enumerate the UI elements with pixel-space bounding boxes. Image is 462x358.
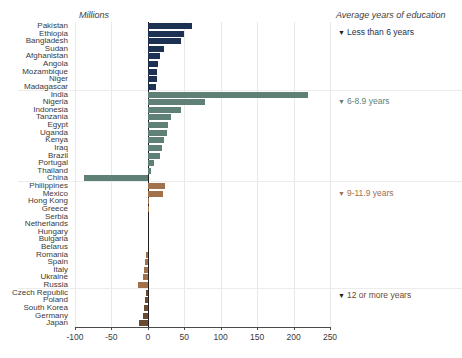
bar [148,137,164,143]
caret-down-icon: ▼ [338,292,345,299]
x-axis-line [75,327,330,328]
bar [146,252,148,258]
bar [148,114,171,120]
bar [148,61,158,67]
bar [148,130,167,136]
bar [148,206,149,212]
x-axis-tick-label: -100 [66,332,83,342]
bar [148,145,163,151]
bar [148,76,157,82]
legend-label: Less than 6 years [347,27,414,37]
x-axis-tick [75,327,76,330]
bar [148,198,149,204]
bar [139,320,148,326]
left-axis-title: Millions [79,10,109,20]
bar [148,153,160,159]
bar [148,191,163,197]
bar [148,107,181,113]
x-axis-tick [184,327,185,330]
bar [143,313,148,319]
legend-entry-3: ▼9-11.9 years [338,188,394,198]
bar [148,69,157,75]
bar [145,297,148,303]
caret-down-icon: ▼ [338,29,345,36]
legend-label: 9-11.9 years [347,188,394,198]
x-axis-tick-label: 250 [323,332,337,342]
bar [144,305,148,311]
x-axis-tick [221,327,222,330]
bar [148,23,192,29]
x-axis-tick [257,327,258,330]
x-axis-tick-label: 50 [180,332,189,342]
bar [143,274,148,280]
bar [148,168,152,174]
plot-area: PakistanEthiopiaBangladeshSudanAfghanist… [75,22,330,327]
bar [84,175,147,181]
x-axis-tick-label: 200 [286,332,300,342]
bar [145,259,148,265]
bar [146,290,148,296]
bar [148,99,205,105]
gridline [330,22,331,327]
legend-entry-4: ▼12 or more years [338,290,411,300]
bar [144,267,148,273]
x-axis-tick [294,327,295,330]
legend-label: 12 or more years [347,290,411,300]
bar [148,31,184,37]
bar [148,38,181,44]
x-axis-tick-label: 150 [250,332,264,342]
caret-down-icon: ▼ [338,98,345,105]
caret-down-icon: ▼ [338,190,345,197]
bar [138,282,148,288]
chart-container: Millions Average years of education Paki… [0,0,462,358]
bar [148,183,165,189]
bar [148,160,155,166]
x-axis-tick-label: 100 [214,332,228,342]
right-legend-title: Average years of education [336,10,445,20]
x-axis-tick [111,327,112,330]
x-axis-tick-label: -50 [105,332,117,342]
legend-label: 6-8.9 years [347,96,390,106]
bar [148,122,168,128]
bar [148,53,160,59]
bar [148,84,156,90]
x-axis-tick-label: 0 [145,332,150,342]
bar [148,92,308,98]
category-label: Japan [46,318,68,327]
bar [148,46,164,52]
x-axis-tick [148,327,149,330]
legend-entry-1: ▼Less than 6 years [338,27,414,37]
legend-entry-2: ▼6-8.9 years [338,96,389,106]
x-axis-tick [330,327,331,330]
